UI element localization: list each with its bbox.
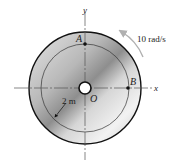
angular-velocity-label: 10 rad/s xyxy=(137,34,166,44)
origin-label: O xyxy=(90,93,97,104)
disk-diagram: y x A B O 10 rad/s 2 m xyxy=(0,0,186,165)
point-b-label: B xyxy=(130,76,136,87)
x-axis-label: x xyxy=(153,83,158,93)
y-axis-label: y xyxy=(82,5,87,15)
point-a-marker xyxy=(83,42,87,46)
radius-label: 2 m xyxy=(62,96,76,106)
point-a-label: A xyxy=(75,33,83,44)
